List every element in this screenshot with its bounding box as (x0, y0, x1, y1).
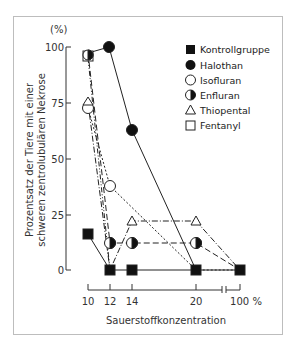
legend-item-kontrollgruppe: Kontrollgruppe (186, 44, 270, 55)
marker-halothan-14 (127, 125, 138, 136)
half-filled-circle-icon (186, 90, 196, 100)
legend-item-enfluran: Enfluran (186, 90, 240, 101)
legend-label: Thiopental (199, 105, 250, 116)
x-axis (88, 284, 240, 293)
chart: (%) 100 75 50 25 0 Prozentsatz der Tiere… (0, 0, 295, 346)
y-tick-25: 25 (51, 210, 64, 221)
y-unit-label: (%) (50, 24, 67, 35)
marker-kontroll-12 (105, 265, 115, 275)
y-axis-title: Prozentsatz der Tiere mit einer schweren… (24, 73, 47, 247)
marker-thiopental-20 (191, 216, 201, 225)
x-tick-14: 14 (126, 296, 139, 307)
marker-enfluran-20 (191, 238, 202, 249)
marker-kontroll-14 (127, 265, 137, 275)
legend-item-halothan: Halothan (186, 60, 244, 71)
filled-square-icon (186, 45, 195, 54)
y-axis-title-line1: Prozentsatz der Tiere mit einer (24, 82, 35, 237)
marker-isofluran-12 (105, 181, 116, 192)
marker-enfluran-14 (127, 238, 138, 249)
x-tick-100: 100 % (230, 296, 262, 307)
y-axis (66, 47, 71, 270)
y-tick-50: 50 (51, 154, 64, 165)
y-tick-100: 100 (45, 42, 64, 53)
open-triangle-icon (186, 105, 196, 114)
marker-enfluran-10 (83, 50, 93, 60)
marker-thiopental-10 (83, 97, 93, 105)
legend-item-isofluran: Isofluran (186, 75, 242, 86)
open-square-icon (186, 121, 195, 130)
x-tick-20: 20 (190, 296, 203, 307)
legend-label: Isofluran (200, 75, 241, 86)
x-tick-10: 10 (82, 296, 95, 307)
legend: Kontrollgruppe Halothan Isofluran Enflur… (186, 44, 271, 131)
legend-label: Fentanyl (200, 120, 241, 131)
y-tick-75: 75 (51, 98, 64, 109)
y-tick-labels: 100 75 50 25 0 (45, 42, 64, 276)
legend-item-fentanyl: Fentanyl (186, 120, 241, 131)
marker-kontroll-100 (235, 265, 245, 275)
open-circle-icon (186, 75, 196, 85)
y-axis-title-line2: schweren zentrolubulären Nekrose (36, 73, 47, 247)
legend-label: Kontrollgruppe (200, 44, 270, 55)
marker-halothan-12 (104, 42, 115, 53)
filled-circle-icon (186, 60, 196, 70)
y-tick-0: 0 (58, 265, 64, 276)
legend-label: Halothan (200, 60, 243, 71)
line-halothan (88, 47, 196, 270)
x-tick-12: 12 (104, 296, 117, 307)
legend-label: Enfluran (200, 90, 240, 101)
legend-item-thiopental: Thiopental (186, 105, 251, 116)
marker-enfluran-12 (105, 238, 116, 249)
x-tick-labels: 10 12 14 20 100 % (82, 296, 262, 307)
x-axis-title: Sauerstoffkonzentration (106, 315, 226, 326)
marker-kontroll-10 (83, 229, 93, 239)
marker-kontroll-20 (191, 265, 201, 275)
